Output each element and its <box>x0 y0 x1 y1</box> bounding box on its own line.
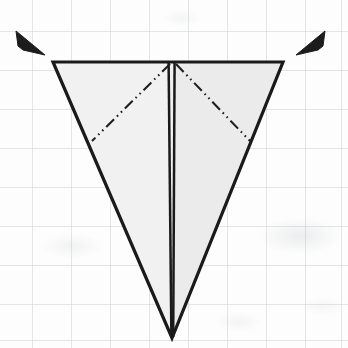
origami-figure <box>0 0 348 348</box>
center-crease-line-right <box>173 62 174 337</box>
fold-arrow-left-icon <box>16 31 45 55</box>
fold-arrow-right-icon <box>296 31 325 55</box>
diagram-canvas: Inverted triangle with centre crease and… <box>0 0 348 348</box>
